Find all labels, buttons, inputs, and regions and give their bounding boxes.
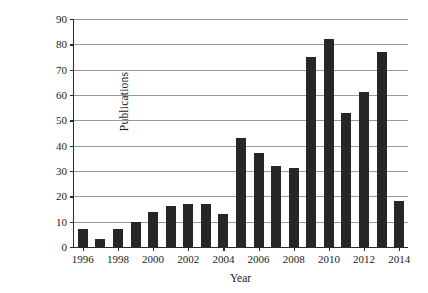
- bar: [324, 39, 334, 247]
- x-axis-tick-mark: [399, 247, 400, 251]
- bar: [183, 204, 193, 247]
- bar: [271, 166, 281, 247]
- y-axis-tick-mark: [70, 120, 74, 121]
- bar: [78, 229, 88, 247]
- bar: [254, 153, 264, 247]
- x-axis-tick-label: 2014: [388, 253, 410, 265]
- x-axis-tick-label: 2004: [212, 253, 234, 265]
- bar-chart-figure: Publications 010203040506070809019961998…: [0, 0, 428, 293]
- y-axis-tick-label: 70: [56, 64, 67, 76]
- gridline: [74, 120, 408, 121]
- y-axis-tick-label: 80: [56, 38, 67, 50]
- bar: [359, 92, 369, 247]
- bar: [394, 201, 404, 247]
- x-axis-tick-mark: [364, 247, 365, 251]
- bar: [166, 206, 176, 247]
- bar: [377, 52, 387, 247]
- plot-area: 0102030405060708090199619982000200220042…: [73, 19, 408, 248]
- x-axis-tick-mark: [153, 247, 154, 251]
- x-axis-tick-mark: [329, 247, 330, 251]
- y-axis-tick-label: 90: [56, 13, 67, 25]
- bar: [148, 212, 158, 247]
- y-axis-tick-mark: [70, 196, 74, 197]
- x-axis-tick-label: 2006: [248, 253, 270, 265]
- gridline: [74, 95, 408, 96]
- x-axis-tick-label: 2000: [142, 253, 164, 265]
- x-axis-tick-label: 2008: [283, 253, 305, 265]
- bar: [95, 239, 105, 247]
- y-axis-tick-mark: [70, 70, 74, 71]
- bar: [236, 138, 246, 247]
- x-axis-tick-mark: [223, 247, 224, 251]
- bar: [341, 113, 351, 247]
- x-axis-tick-label: 2012: [353, 253, 375, 265]
- bar: [201, 204, 211, 247]
- x-axis-title: Year: [73, 272, 408, 284]
- y-axis-tick-label: 40: [56, 140, 67, 152]
- gridline: [74, 70, 408, 71]
- x-axis-tick-label: 1998: [107, 253, 129, 265]
- bar: [289, 168, 299, 247]
- x-axis-tick-mark: [118, 247, 119, 251]
- bar: [131, 222, 141, 247]
- x-axis-tick-mark: [83, 247, 84, 251]
- x-axis-tick-label: 1996: [72, 253, 94, 265]
- bar: [306, 57, 316, 247]
- y-axis-tick-label: 10: [56, 216, 67, 228]
- gridline: [74, 19, 408, 20]
- y-axis-tick-mark: [70, 247, 74, 248]
- y-axis-tick-mark: [70, 171, 74, 172]
- y-axis-tick-label: 20: [56, 190, 67, 202]
- y-axis-tick-mark: [70, 95, 74, 96]
- y-axis-tick-label: 60: [56, 89, 67, 101]
- bar: [113, 229, 123, 247]
- x-axis-tick-mark: [259, 247, 260, 251]
- gridline: [74, 44, 408, 45]
- y-axis-tick-mark: [70, 19, 74, 20]
- x-axis-tick-label: 2002: [177, 253, 199, 265]
- x-axis-tick-mark: [294, 247, 295, 251]
- y-axis-tick-mark: [70, 146, 74, 147]
- bar: [218, 214, 228, 247]
- x-axis-tick-label: 2010: [318, 253, 340, 265]
- y-axis-tick-label: 30: [56, 165, 67, 177]
- y-axis-tick-label: 50: [56, 114, 67, 126]
- y-axis-tick-label: 0: [62, 241, 68, 253]
- y-axis-tick-mark: [70, 222, 74, 223]
- y-axis-tick-mark: [70, 44, 74, 45]
- x-axis-tick-mark: [188, 247, 189, 251]
